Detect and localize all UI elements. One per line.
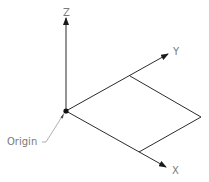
axes-diagram: Z Y X Origin <box>0 0 209 182</box>
xy-plane-outline <box>130 76 201 152</box>
y-axis-label: Y <box>172 46 180 57</box>
origin-label: Origin <box>7 136 37 147</box>
y-axis <box>66 54 168 111</box>
origin-point <box>63 108 68 113</box>
x-axis <box>66 111 166 167</box>
z-axis-label: Z <box>63 7 70 18</box>
origin-leader <box>42 115 63 142</box>
x-axis-label: X <box>172 165 179 176</box>
